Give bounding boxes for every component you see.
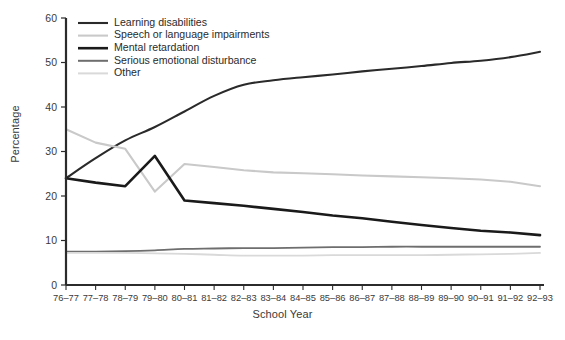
line-chart: Percentage School Year 010203040506076–7… (0, 0, 565, 340)
x-tick-label: 91–92 (497, 293, 523, 303)
series-line (66, 253, 540, 256)
x-tick-label: 92–93 (527, 293, 553, 303)
legend-label: Other (114, 66, 141, 78)
legend-label: Learning disabilities (114, 16, 207, 28)
series-line (66, 129, 540, 191)
x-tick-label: 80–81 (172, 293, 198, 303)
y-tick-label: 30 (45, 145, 57, 157)
x-tick-label: 77–78 (83, 293, 109, 303)
x-tick-label: 76–77 (53, 293, 79, 303)
y-tick-label: 20 (45, 190, 57, 202)
x-tick-label: 81–82 (201, 293, 227, 303)
x-tick-label: 88–89 (409, 293, 435, 303)
x-tick-label: 86–87 (349, 293, 375, 303)
x-tick-label: 84–85 (290, 293, 316, 303)
x-tick-label: 78–79 (112, 293, 138, 303)
legend-label: Speech or language impairments (114, 28, 269, 40)
series-layer (66, 52, 540, 256)
legend-label: Serious emotional disturbance (114, 54, 257, 66)
series-line (66, 156, 540, 235)
x-tick-label: 90–91 (468, 293, 494, 303)
legend: Learning disabilitiesSpeech or language … (78, 16, 269, 78)
x-tick-label: 82–83 (231, 293, 257, 303)
plot-area: 010203040506076–7777–7878–7979–8080–8181… (0, 0, 565, 340)
x-tick-label: 87–88 (379, 293, 405, 303)
y-tick-label: 50 (45, 56, 57, 68)
y-tick-label: 10 (45, 234, 57, 246)
x-tick-label: 85–86 (320, 293, 346, 303)
y-tick-label: 0 (51, 279, 57, 291)
legend-label: Mental retardation (114, 41, 199, 53)
series-line (66, 247, 540, 252)
y-tick-label: 40 (45, 101, 57, 113)
y-tick-label: 60 (45, 12, 57, 24)
x-tick-label: 89–90 (438, 293, 464, 303)
x-tick-label: 83–84 (260, 293, 286, 303)
x-tick-label: 79–80 (142, 293, 168, 303)
